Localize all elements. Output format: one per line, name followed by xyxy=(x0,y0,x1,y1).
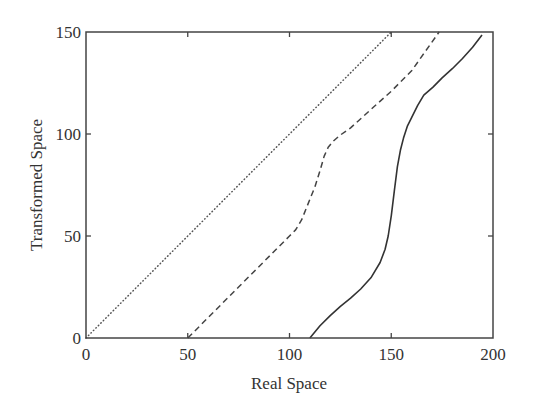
x-tick-label: 50 xyxy=(179,345,196,364)
x-tick-label: 100 xyxy=(277,345,303,364)
y-tick-label: 150 xyxy=(56,23,82,42)
tick-labels: 050100150200050100150 xyxy=(56,23,506,364)
y-tick-label: 100 xyxy=(56,125,82,144)
series-dashed-line xyxy=(188,32,439,338)
chart: 050100150200050100150 Real Space Transfo… xyxy=(0,0,533,415)
x-tick-label: 150 xyxy=(379,345,405,364)
y-axis-label: Transformed Space xyxy=(27,119,46,251)
x-axis-label: Real Space xyxy=(251,374,327,393)
x-tick-label: 200 xyxy=(480,345,506,364)
y-tick-label: 0 xyxy=(73,329,82,348)
axes xyxy=(86,32,493,338)
plot-frame xyxy=(86,32,493,338)
x-tick-label: 0 xyxy=(82,345,91,364)
y-tick-label: 50 xyxy=(64,227,81,246)
series-solid-line xyxy=(310,35,482,338)
plot-lines xyxy=(86,32,482,338)
series-dotted-line xyxy=(86,32,391,338)
